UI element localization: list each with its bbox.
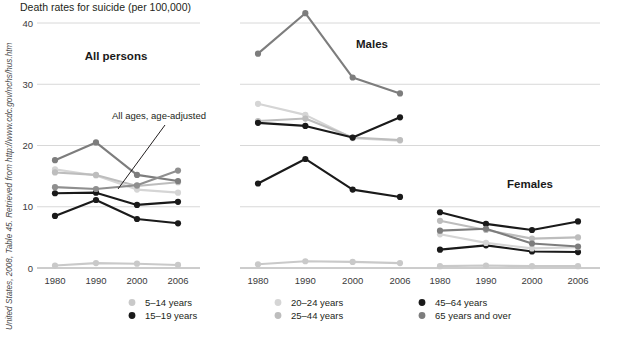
series-point xyxy=(397,194,403,200)
panel-females xyxy=(437,209,581,269)
legend-marker-20-24-years xyxy=(275,299,282,306)
y-tick-label-40: 40 xyxy=(22,18,33,29)
series-point xyxy=(255,101,261,107)
series-point xyxy=(529,240,535,246)
series-point xyxy=(397,114,403,120)
series-point xyxy=(529,227,535,233)
panel-all-persons xyxy=(52,139,181,268)
series-point xyxy=(437,247,443,253)
series-point xyxy=(302,123,308,129)
series-point xyxy=(52,184,58,190)
legend-label-15-19-years: 15–19 years xyxy=(145,310,198,321)
series-point xyxy=(350,134,356,140)
series-point xyxy=(93,260,99,266)
series-line-5-14-years xyxy=(55,263,178,265)
series-point xyxy=(302,10,308,16)
series-point xyxy=(302,258,308,264)
x-tick-label-1980: 1980 xyxy=(247,275,268,286)
y-tick-label-0: 0 xyxy=(28,263,33,274)
x-tick-label-2006: 2006 xyxy=(567,275,588,286)
series-point xyxy=(483,226,489,232)
series-point xyxy=(437,263,443,269)
series-point xyxy=(255,261,261,267)
series-point xyxy=(93,197,99,203)
chart-axis-title: Death rates for suicide (per 100,000) xyxy=(20,1,191,13)
series-point xyxy=(397,137,403,143)
series-point xyxy=(93,172,99,178)
series-point xyxy=(52,262,58,268)
series-point xyxy=(175,220,181,226)
panel-title-females: Females xyxy=(507,178,553,190)
x-tick-label-1990: 1990 xyxy=(85,275,106,286)
series-point xyxy=(134,216,140,222)
series-point xyxy=(255,180,261,186)
series-point xyxy=(93,139,99,145)
x-tick-label-2006: 2006 xyxy=(389,275,410,286)
series-point xyxy=(350,74,356,80)
legend-label-25-44-years: 25–44 years xyxy=(291,310,344,321)
legend-marker-45-64-years xyxy=(419,299,426,306)
legend-label-45-64-years: 45–64 years xyxy=(435,297,488,308)
x-tick-label-1980: 1980 xyxy=(429,275,450,286)
panel-title-males: Males xyxy=(356,38,388,50)
x-tick-label-1990: 1990 xyxy=(295,275,316,286)
x-tick-label-1990: 1990 xyxy=(475,275,496,286)
series-line-20-24-years xyxy=(258,104,400,141)
series-point xyxy=(134,172,140,178)
series-point xyxy=(302,156,308,162)
series-point xyxy=(575,218,581,224)
series-point xyxy=(437,228,443,234)
panel-title-all-persons: All persons xyxy=(85,50,148,62)
series-point xyxy=(437,218,443,224)
legend-marker-15-19-years xyxy=(129,312,136,319)
series-point xyxy=(52,213,58,219)
series-line-65-years-and-over xyxy=(258,13,400,93)
legend-marker-25-44-years xyxy=(275,312,282,319)
x-tick-label-2006: 2006 xyxy=(167,275,188,286)
series-point xyxy=(175,168,181,174)
series-line-65-years-and-over xyxy=(55,142,178,181)
legend-label-20-24-years: 20–24 years xyxy=(291,297,344,308)
x-tick-label-2000: 2000 xyxy=(342,275,363,286)
series-point xyxy=(175,178,181,184)
series-line-45-64-years xyxy=(55,193,178,205)
legend-marker-65-years-and-over xyxy=(419,312,426,319)
series-point xyxy=(437,209,443,215)
series-point xyxy=(350,187,356,193)
series-point xyxy=(134,261,140,267)
x-tick-label-1980: 1980 xyxy=(44,275,65,286)
legend-label-65-years-and-over: 65 years and over xyxy=(435,310,511,321)
y-tick-label-10: 10 xyxy=(22,201,33,212)
chart-canvas: 0102030401980199020002006198019902000200… xyxy=(0,0,631,340)
series-point xyxy=(134,182,140,188)
series-point xyxy=(175,262,181,268)
series-point xyxy=(302,115,308,121)
series-point xyxy=(134,202,140,208)
x-tick-label-2000: 2000 xyxy=(126,275,147,286)
series-point xyxy=(483,262,489,268)
annotation-leader-line xyxy=(118,125,165,189)
series-line-5-14-years xyxy=(440,266,578,267)
series-point xyxy=(255,51,261,57)
y-tick-label-30: 30 xyxy=(22,79,33,90)
suicide-death-rates-chart: 0102030401980199020002006198019902000200… xyxy=(0,0,631,340)
series-point xyxy=(93,186,99,192)
series-point xyxy=(255,120,261,126)
series-point xyxy=(175,190,181,196)
y-tick-label-20: 20 xyxy=(22,140,33,151)
series-line-15-19-years xyxy=(258,159,400,197)
series-point xyxy=(397,90,403,96)
series-point xyxy=(575,234,581,240)
series-point xyxy=(397,260,403,266)
series-point xyxy=(52,190,58,196)
annotation-label-all-ages: All ages, age-adjusted xyxy=(112,110,206,121)
series-point xyxy=(350,259,356,265)
legend-label-5-14-years: 5–14 years xyxy=(145,297,192,308)
series-line-5-14-years xyxy=(258,261,400,264)
series-point xyxy=(575,243,581,249)
series-point xyxy=(52,157,58,163)
series-point xyxy=(575,263,581,269)
series-point xyxy=(52,169,58,175)
series-line-25-44-years xyxy=(258,119,400,140)
legend-marker-5-14-years xyxy=(129,299,136,306)
